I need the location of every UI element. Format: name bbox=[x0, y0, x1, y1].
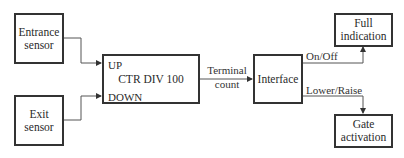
terminal-count-line2: count bbox=[215, 78, 239, 90]
exit-sensor-label-line1: Exit bbox=[29, 108, 48, 120]
counter-up-input-label: UP bbox=[108, 59, 122, 71]
counter-down-input-label: DOWN bbox=[108, 91, 142, 103]
full-indication-label-line1: Full bbox=[354, 17, 373, 29]
terminal-count-label: Terminal count bbox=[205, 64, 249, 92]
counter-title: CTR DIV 100 bbox=[118, 73, 184, 86]
terminal-count-line1: Terminal bbox=[207, 64, 247, 76]
entrance-sensor-block: Entrance sensor bbox=[14, 13, 64, 64]
interface-label: Interface bbox=[258, 73, 299, 86]
full-indication-block: Full indication bbox=[334, 13, 393, 47]
gate-activation-block: Gate activation bbox=[334, 114, 393, 148]
gate-activation-label-line1: Gate bbox=[353, 118, 375, 130]
exit-sensor-block: Exit sensor bbox=[14, 95, 64, 146]
parking-counter-block-diagram: Entrance sensor Exit sensor UP CTR DIV 1… bbox=[0, 0, 404, 158]
exit-sensor-label-line2: sensor bbox=[24, 121, 53, 133]
full-indication-label-line2: indication bbox=[341, 30, 387, 42]
counter-block: UP CTR DIV 100 DOWN bbox=[102, 54, 200, 104]
gate-activation-label-line2: activation bbox=[341, 131, 386, 143]
entrance-sensor-label-line2: sensor bbox=[24, 39, 53, 51]
entrance-sensor-label-line1: Entrance bbox=[19, 26, 60, 38]
lower-raise-signal-label: Lower/Raise bbox=[306, 84, 362, 96]
interface-block: Interface bbox=[253, 54, 303, 104]
on-off-signal-label: On/Off bbox=[306, 50, 338, 62]
